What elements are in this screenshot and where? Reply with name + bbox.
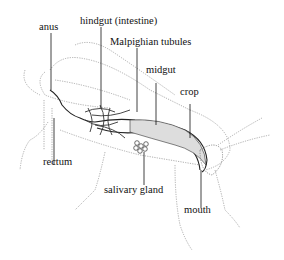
- label-malpighian-tubules: Malpighian tubules: [110, 36, 191, 48]
- label-salivary-gland: salivary gland: [104, 184, 163, 196]
- label-crop: crop: [180, 86, 199, 98]
- label-anus: anus: [39, 21, 58, 33]
- label-midgut: midgut: [146, 64, 176, 76]
- label-rectum: rectum: [43, 156, 72, 168]
- label-mouth: mouth: [184, 204, 211, 216]
- insect-digestive-diagram: anus hindgut (intestine) Malpighian tubu…: [0, 0, 284, 260]
- label-hindgut: hindgut (intestine): [80, 15, 157, 27]
